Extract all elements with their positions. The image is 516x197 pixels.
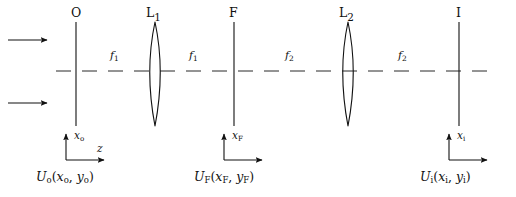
field-object-sub: o bbox=[47, 175, 52, 185]
axis-label-x-fourier-sub: F bbox=[238, 134, 243, 143]
plane-label-lens1-sub: 1 bbox=[154, 11, 161, 23]
focal-label-f2-right: f2 bbox=[398, 50, 407, 61]
axis-label-z: z bbox=[97, 143, 103, 154]
field-fourier-arg1-sub: F bbox=[222, 175, 228, 185]
plane-label-fourier: F bbox=[229, 7, 238, 20]
field-object-arg2: y bbox=[77, 169, 84, 184]
field-object-close-paren: ) bbox=[89, 169, 94, 184]
field-expression-image: Ui(xi, yi) bbox=[420, 171, 471, 184]
field-expression-fourier: UF(xF, yF) bbox=[194, 171, 254, 184]
field-object-arg1-sub: o bbox=[64, 175, 69, 185]
axis-label-x-fourier: xF bbox=[232, 130, 243, 141]
axis-label-z-text: z bbox=[97, 142, 103, 154]
coordinate-frame-fourier bbox=[224, 134, 262, 160]
optics-4f-diagram: O L1 F L2 I f1 f1 f2 f2 xo z xF xi Uo(xo… bbox=[0, 0, 516, 197]
field-image-sub: i bbox=[431, 175, 434, 185]
coordinate-frame-image bbox=[449, 134, 487, 160]
axis-label-x-object-sub: o bbox=[80, 134, 84, 143]
lens-L2 bbox=[343, 22, 354, 126]
plane-label-object-text: O bbox=[71, 5, 81, 20]
axis-label-x-object: xo bbox=[74, 130, 84, 141]
plane-label-lens2: L2 bbox=[339, 7, 354, 22]
field-image-arg2-sub: i bbox=[463, 175, 466, 185]
field-object-comma: , bbox=[69, 169, 77, 184]
field-fourier-base: U bbox=[194, 169, 205, 184]
field-expression-object: Uo(xo, yo) bbox=[36, 171, 94, 184]
axis-label-x-image-sub: i bbox=[463, 134, 465, 143]
plane-label-lens2-sub: 2 bbox=[347, 11, 354, 23]
focal-label-f2-left: f2 bbox=[285, 50, 294, 61]
field-fourier-sub: F bbox=[205, 175, 211, 185]
field-object-base: U bbox=[36, 169, 47, 184]
plane-label-fourier-text: F bbox=[229, 5, 238, 20]
field-object-arg2-sub: o bbox=[84, 175, 89, 185]
field-image-comma: , bbox=[448, 169, 456, 184]
plane-label-object: O bbox=[71, 7, 81, 20]
field-image-close-paren: ) bbox=[466, 169, 471, 184]
focal-label-f1-right: f1 bbox=[189, 50, 198, 61]
field-object-arg1: x bbox=[57, 169, 64, 184]
plane-label-lens1: L1 bbox=[146, 7, 161, 22]
field-fourier-arg2-sub: F bbox=[243, 175, 249, 185]
plane-label-image-text: I bbox=[456, 5, 461, 20]
plane-label-image: I bbox=[456, 7, 461, 20]
field-image-arg2: y bbox=[456, 169, 463, 184]
diagram-canvas bbox=[0, 0, 516, 197]
focal-label-f2-right-sub: 2 bbox=[402, 54, 407, 63]
field-image-base: U bbox=[420, 169, 431, 184]
focal-label-f1-left: f1 bbox=[110, 50, 119, 61]
lens-L1 bbox=[150, 22, 161, 126]
field-image-arg1-sub: i bbox=[445, 175, 448, 185]
focal-label-f1-left-sub: 1 bbox=[114, 54, 119, 63]
field-fourier-close-paren: ) bbox=[249, 169, 254, 184]
axis-label-x-image: xi bbox=[457, 130, 465, 141]
focal-label-f2-left-sub: 2 bbox=[289, 54, 294, 63]
input-ray-arrows bbox=[8, 40, 47, 103]
focal-label-f1-right-sub: 1 bbox=[193, 54, 198, 63]
